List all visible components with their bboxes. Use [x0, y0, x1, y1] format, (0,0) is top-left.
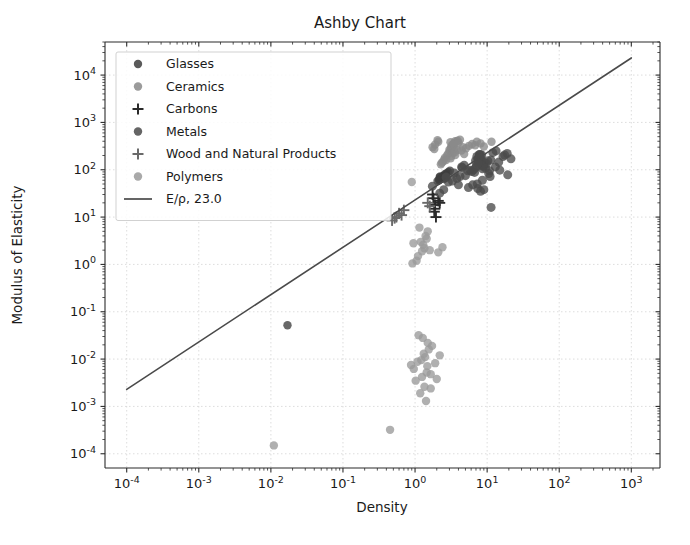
- legend-circle-marker-icon: [134, 82, 142, 90]
- data-point: [415, 223, 423, 231]
- x-axis-title: Density: [356, 499, 407, 515]
- data-point: [476, 187, 485, 196]
- legend-item-label: Carbons: [166, 101, 218, 116]
- data-point: [478, 176, 487, 185]
- data-point: [428, 342, 436, 350]
- data-point: [270, 441, 278, 449]
- data-point: [422, 397, 430, 405]
- data-point: [409, 239, 417, 247]
- data-point: [430, 145, 438, 153]
- data-point: [436, 351, 444, 359]
- data-point: [486, 172, 495, 181]
- legend-item-label: Wood and Natural Products: [166, 146, 336, 161]
- legend-circle-marker-icon: [134, 60, 142, 68]
- data-point: [503, 170, 512, 179]
- legend-item-label: Polymers: [166, 169, 223, 184]
- ashby-chart-figure: Ashby Chart 10-410-310-210-1100101102103…: [0, 0, 690, 545]
- legend-item-label: E/ρ, 23.0: [166, 191, 222, 206]
- data-point: [435, 189, 444, 198]
- y-axis-title: Modulus of Elasticity: [9, 185, 25, 324]
- legend-circle-marker-icon: [134, 172, 142, 180]
- data-point: [451, 151, 459, 159]
- data-point: [408, 178, 416, 186]
- data-point: [423, 362, 431, 370]
- data-point: [414, 331, 422, 339]
- legend[interactable]: GlassesCeramicsCarbonsMetalsWood and Nat…: [116, 52, 391, 221]
- legend-item-label: Glasses: [166, 56, 214, 71]
- data-point: [433, 136, 441, 144]
- page-title: Ashby Chart: [314, 14, 406, 32]
- data-point: [408, 259, 416, 267]
- data-point: [427, 370, 435, 378]
- data-point: [426, 246, 434, 254]
- data-point: [386, 426, 394, 434]
- data-point: [427, 384, 435, 392]
- legend-item-label: Metals: [166, 124, 207, 139]
- data-point: [438, 243, 446, 251]
- data-point: [283, 321, 291, 329]
- data-point: [487, 203, 496, 212]
- data-point: [480, 142, 488, 150]
- data-point: [416, 389, 424, 397]
- legend-circle-marker-icon: [134, 127, 142, 135]
- data-point: [460, 150, 468, 158]
- data-point: [422, 234, 430, 242]
- data-point: [431, 359, 439, 367]
- data-point: [500, 150, 509, 159]
- data-point: [495, 166, 504, 175]
- data-point: [413, 358, 421, 366]
- legend-item-label: Ceramics: [166, 79, 224, 94]
- data-point: [424, 227, 432, 235]
- data-point: [494, 158, 503, 167]
- data-point: [411, 376, 419, 384]
- data-point: [487, 138, 495, 146]
- chart-canvas: Ashby Chart 10-410-310-210-1100101102103…: [0, 0, 690, 545]
- data-point: [464, 183, 473, 192]
- data-point: [410, 365, 418, 373]
- data-point: [437, 160, 445, 168]
